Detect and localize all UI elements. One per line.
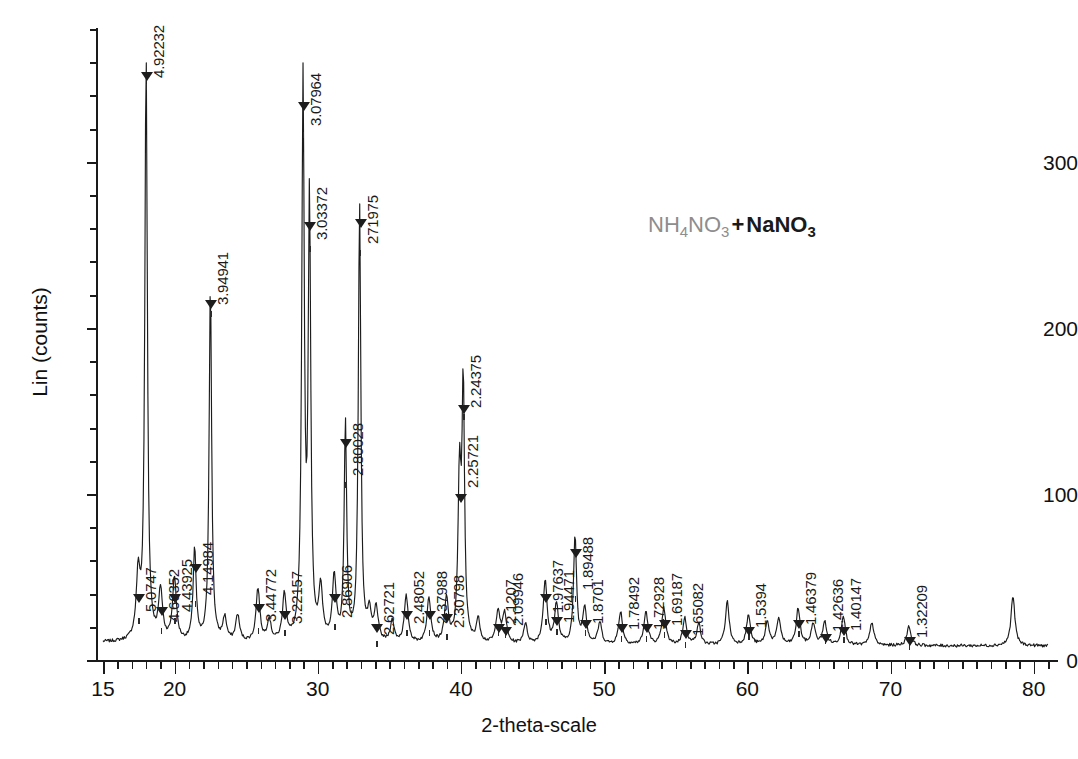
- x-tick-label: 60: [717, 678, 777, 699]
- x-tick-minor: [547, 662, 549, 669]
- peak-leader-line: [161, 628, 162, 634]
- peak-leader-line: [545, 619, 546, 625]
- x-tick-minor: [776, 662, 778, 669]
- x-tick-minor: [432, 662, 434, 669]
- peak-leader-line: [406, 630, 407, 636]
- peak-leader-line: [360, 250, 361, 256]
- x-tick-minor: [905, 662, 907, 669]
- peak-leader-line: [345, 482, 346, 488]
- y-tick-minor: [90, 195, 97, 197]
- y-tick-minor: [90, 627, 97, 629]
- peak-dspacing-label: 2.30798: [451, 575, 466, 628]
- peak-dspacing-label: 3.07964: [308, 73, 323, 126]
- x-tick-major: [175, 662, 177, 674]
- peak-dspacing-label: 1.8701: [590, 579, 605, 624]
- x-tick-minor: [160, 662, 162, 669]
- x-tick-minor: [618, 662, 620, 669]
- x-tick-minor: [833, 662, 835, 669]
- x-tick-minor: [418, 662, 420, 669]
- x-tick-minor: [218, 662, 220, 669]
- x-tick-major: [747, 662, 749, 674]
- peak-leader-line: [195, 601, 196, 607]
- peak-leader-line: [309, 246, 310, 252]
- peak-marker-triangle-icon: [820, 634, 832, 643]
- peak-dspacing-label: 1.65082: [690, 583, 705, 636]
- y-tick-minor: [90, 527, 97, 529]
- x-tick-minor: [848, 662, 850, 669]
- peak-leader-line: [575, 596, 576, 602]
- x-tick-minor: [590, 662, 592, 669]
- x-tick-minor: [919, 662, 921, 669]
- x-tick-minor: [733, 662, 735, 669]
- y-tick-minor: [90, 129, 97, 131]
- x-tick-minor: [303, 662, 305, 669]
- formula-part: +: [729, 212, 746, 237]
- peak-leader-line: [146, 84, 147, 90]
- y-tick-minor: [90, 560, 97, 562]
- formula-part: NaNO: [746, 212, 807, 237]
- x-axis-title: 2-theta-scale: [0, 714, 1078, 737]
- x-tick-major: [891, 662, 893, 674]
- y-tick-minor: [90, 295, 97, 297]
- y-tick-minor: [90, 394, 97, 396]
- x-tick-minor: [819, 662, 821, 669]
- x-tick-minor: [389, 662, 391, 669]
- peak-leader-line: [138, 618, 139, 624]
- x-tick-minor: [375, 662, 377, 669]
- y-tick-minor: [90, 594, 97, 596]
- x-tick-minor: [690, 662, 692, 669]
- x-tick-minor: [561, 662, 563, 669]
- y-tick-minor: [90, 428, 97, 430]
- peak-dspacing-label: 2.80028: [350, 423, 365, 476]
- peak-leader-line: [556, 629, 557, 635]
- x-tick-minor: [132, 662, 134, 669]
- x-tick-label: 70: [861, 678, 921, 699]
- x-tick-minor: [275, 662, 277, 669]
- x-tick-minor: [976, 662, 978, 669]
- x-tick-minor: [361, 662, 363, 669]
- x-tick-minor: [948, 662, 950, 669]
- x-tick-minor: [246, 662, 248, 669]
- peak-dspacing-label: 3.03372: [314, 187, 329, 240]
- y-tick-major: [87, 162, 98, 164]
- y-tick-major: [87, 328, 98, 330]
- x-tick-major: [461, 662, 463, 674]
- x-tick-minor: [962, 662, 964, 669]
- x-tick-label: 50: [574, 678, 634, 699]
- peak-leader-line: [284, 630, 285, 636]
- x-tick-minor: [203, 662, 205, 669]
- x-tick-minor: [661, 662, 663, 669]
- y-tick-minor: [90, 361, 97, 363]
- x-tick-minor: [475, 662, 477, 669]
- x-tick-major: [604, 662, 606, 674]
- x-tick-minor: [117, 662, 119, 669]
- peak-dspacing-label: 3.22157: [289, 571, 304, 624]
- x-tick-minor: [647, 662, 649, 669]
- peak-leader-line: [685, 642, 686, 648]
- x-tick-minor: [504, 662, 506, 669]
- x-tick-minor: [332, 662, 334, 669]
- peak-leader-line: [446, 634, 447, 640]
- peak-dspacing-label: 1.69187: [669, 573, 684, 626]
- x-tick-minor: [1019, 662, 1021, 669]
- y-tick-minor: [90, 95, 97, 97]
- x-tick-minor: [1048, 662, 1050, 669]
- peak-leader-line: [798, 631, 799, 637]
- peak-dspacing-label: 2.09946: [510, 573, 525, 626]
- peak-leader-line: [463, 414, 464, 420]
- peak-dspacing-label: 1.40147: [848, 578, 863, 631]
- x-tick-minor: [404, 662, 406, 669]
- y-tick-major: [87, 494, 98, 496]
- peak-dspacing-label: 1.46379: [803, 572, 818, 625]
- x-tick-major: [103, 662, 105, 674]
- x-tick-label: 40: [431, 678, 491, 699]
- x-tick-minor: [704, 662, 706, 669]
- y-axis-title: Lin (counts): [28, 242, 52, 442]
- peak-dspacing-label: 1.32209: [914, 585, 929, 638]
- x-tick-major: [1034, 662, 1036, 674]
- peak-dspacing-label: 2.62721: [381, 582, 396, 635]
- x-tick-major: [318, 662, 320, 674]
- peak-leader-line: [429, 630, 430, 636]
- x-tick-minor: [232, 662, 234, 669]
- x-tick-label: 15: [73, 678, 133, 699]
